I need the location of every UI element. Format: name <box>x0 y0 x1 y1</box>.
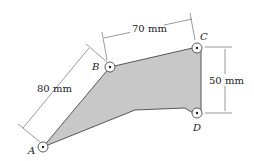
pin-a-icon <box>38 142 48 152</box>
pin-b-icon <box>105 62 115 72</box>
dimension-cd-label: 50 mm <box>209 75 244 86</box>
point-label-c: C <box>200 31 208 42</box>
point-label-d: D <box>192 122 201 133</box>
pin-d-icon <box>192 108 202 118</box>
point-label-b: B <box>91 61 99 72</box>
dimension-ab-label: 80 mm <box>37 83 72 94</box>
linkage-diagram: 80 mm 70 mm 50 mm A B C D <box>0 0 254 161</box>
plate <box>43 47 201 147</box>
dimension-bc-label: 70 mm <box>132 23 167 34</box>
pin-c-icon <box>192 43 202 53</box>
point-label-a: A <box>27 145 35 156</box>
